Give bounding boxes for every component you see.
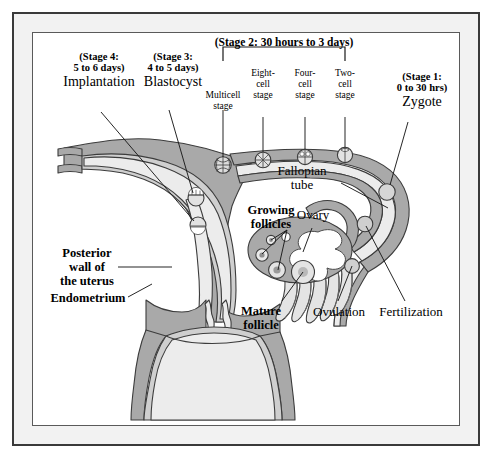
eight-cell-line2: cell (240, 79, 286, 90)
figure-canvas: (Stage 4: 5 to 6 days) Implantation (Sta… (0, 0, 494, 461)
ovum-fertilization (357, 216, 373, 232)
stage-3-line2: 4 to 5 days) (126, 63, 220, 74)
two-cell-line2: cell (322, 79, 368, 90)
label-zygote: Zygote (376, 95, 468, 109)
two-cell-line3: stage (322, 90, 368, 101)
two-cell-line1: Two- (322, 68, 368, 79)
label-stage-2-header: (Stage 2: 30 hours to 3 days) (196, 36, 372, 49)
uterus-left-horn (58, 148, 82, 157)
eight-cell-line3: stage (240, 90, 286, 101)
growing-follicles-line1: Growing (238, 203, 304, 217)
leader-zygote (390, 122, 408, 185)
posterior-wall-line2: wall of (56, 260, 118, 274)
eight-cell-line1: Eight- (240, 68, 286, 79)
stage-1-line2: 0 to 30 hrs) (376, 83, 468, 94)
label-eight-cell-stage: Eight- cell stage (240, 66, 286, 101)
follicle-growing-1-core (259, 252, 264, 257)
fallopian-tube-line1: Fallopian (262, 164, 342, 178)
label-fertilization: Fertilization (369, 305, 453, 319)
label-growing-follicles: Growing follicles (238, 203, 304, 231)
embryo-multicell (215, 157, 231, 173)
label-stage-3-blastocyst: (Stage 3: 4 to 5 days) Blastocyst (126, 52, 220, 90)
posterior-wall-line3: the uterus (56, 274, 118, 288)
label-two-cell-stage: Two- cell stage (322, 66, 368, 101)
mature-follicle-line1: Mature (230, 304, 292, 318)
follicle-growing-2-core (273, 266, 280, 273)
embryo-blastocyst (188, 187, 204, 206)
label-endometrium: Endometrium (46, 291, 130, 305)
uterus-left-horn-lower (58, 165, 82, 174)
leader-endometrium (128, 284, 152, 297)
label-mature-follicle: Mature follicle (230, 304, 292, 332)
mature-follicle-line2: follicle (230, 318, 292, 332)
vagina-canal (151, 333, 275, 420)
label-posterior-wall: Posterior wall of the uterus (56, 246, 118, 288)
multicell-line2: stage (193, 101, 253, 112)
embryo-two-cell (337, 147, 352, 162)
stage2-bracket (223, 47, 345, 61)
embryo-zygote (379, 184, 395, 200)
fallopian-tube-line2: tube (262, 178, 342, 192)
label-stage-1-zygote: (Stage 1: 0 to 30 hrs) Zygote (376, 72, 468, 110)
posterior-wall-line1: Posterior (56, 246, 118, 260)
label-fallopian-tube: Fallopian tube (262, 164, 342, 193)
label-ovulation: Ovulation (302, 305, 376, 319)
growing-follicles-line2: follicles (238, 217, 304, 231)
